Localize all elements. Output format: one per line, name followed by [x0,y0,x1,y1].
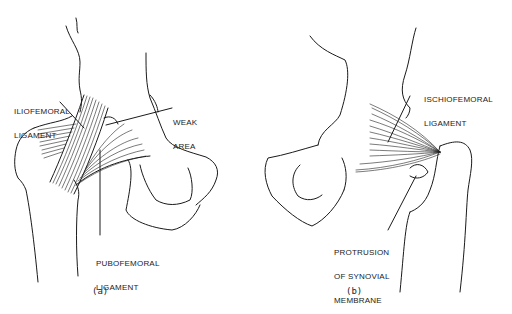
panel-a-caption: (a) [92,286,108,296]
synovial-protrusion-label: PROTRUSION OF SYNOVIAL MEMBRANE [334,233,390,313]
weak-area-label-line-1: WEAK [173,119,197,127]
protrusion-label-line-1: PROTRUSION [334,249,390,257]
iliofemoral-label-line-2: LIGAMENT [14,132,70,140]
ischiofemoral-ligament-label: ISCHIOFEMORAL LIGAMENT [424,80,493,136]
weak-area-label: WEAK AREA [173,103,197,159]
iliofemoral-ligament-label: ILIOFEMORAL LIGAMENT [14,92,70,148]
ischiofemoral-label-line-1: ISCHIOFEMORAL [424,96,493,104]
weak-area-label-line-2: AREA [173,143,197,151]
hip-ligaments-illustration [0,0,512,314]
protrusion-label-line-2: OF SYNOVIAL [334,273,390,281]
protrusion-label-line-3: MEMBRANE [334,297,390,305]
panel-b-caption: (b) [346,286,362,296]
ischiofemoral-label-line-2: LIGAMENT [424,120,493,128]
iliofemoral-label-line-1: ILIOFEMORAL [14,108,70,116]
pubofemoral-label-line-1: PUBOFEMORAL [96,260,160,268]
